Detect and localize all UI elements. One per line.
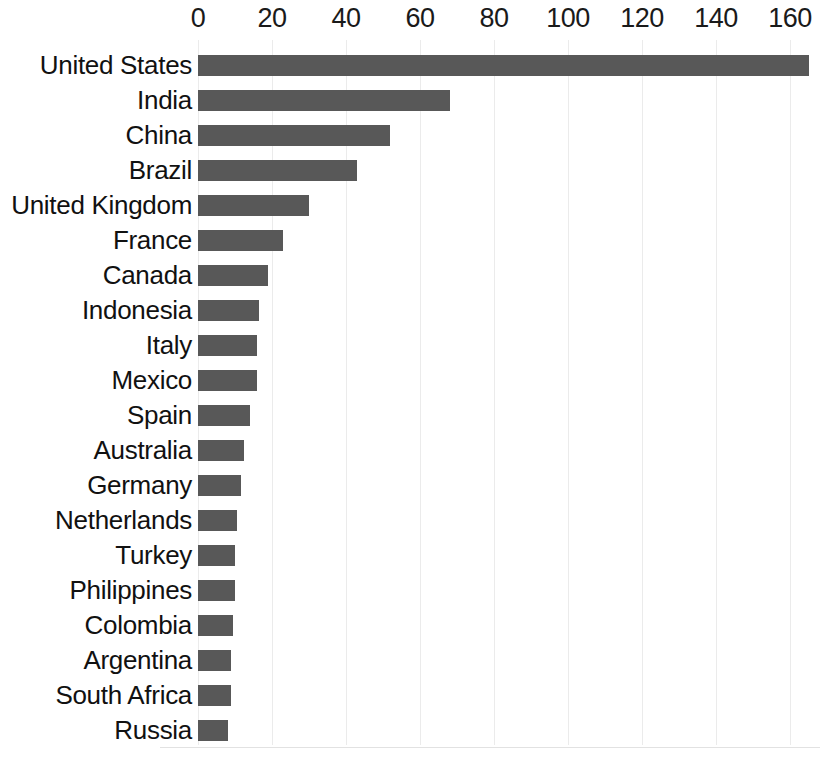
bar <box>198 545 235 566</box>
bar-row: Philippines <box>0 573 830 608</box>
bar <box>198 55 809 76</box>
bar-category-label: France <box>113 223 192 258</box>
bar-chart: 020406080100120140160 United StatesIndia… <box>0 0 830 759</box>
bar-category-label: Australia <box>94 433 192 468</box>
bar-category-label: United States <box>40 48 192 83</box>
bar-row: South Africa <box>0 678 830 713</box>
bar-category-label: Brazil <box>129 153 192 188</box>
bar-category-label: Spain <box>127 398 192 433</box>
bar <box>198 440 244 461</box>
bar-category-label: Italy <box>146 328 192 363</box>
bar <box>198 160 357 181</box>
bar-row: Indonesia <box>0 293 830 328</box>
x-tick-label: 80 <box>479 2 508 34</box>
bar-category-label: South Africa <box>55 678 192 713</box>
bar-row: Australia <box>0 433 830 468</box>
bar-row: Italy <box>0 328 830 363</box>
bar <box>198 300 259 321</box>
x-tick-label: 0 <box>191 2 206 34</box>
bar-category-label: Russia <box>114 713 192 748</box>
bar-row: Colombia <box>0 608 830 643</box>
bar-row: Argentina <box>0 643 830 678</box>
bar <box>198 230 283 251</box>
bar-category-label: Indonesia <box>82 293 192 328</box>
bar-row: France <box>0 223 830 258</box>
x-tick-label: 140 <box>694 2 738 34</box>
bar-row: Germany <box>0 468 830 503</box>
x-tick-label: 20 <box>257 2 286 34</box>
bar-row: Netherlands <box>0 503 830 538</box>
bar <box>198 685 231 706</box>
bar <box>198 195 309 216</box>
x-tick-label: 60 <box>405 2 434 34</box>
x-tick-label: 120 <box>620 2 664 34</box>
bar-category-label: Mexico <box>111 363 192 398</box>
bar-row: Russia <box>0 713 830 748</box>
bar-category-label: Germany <box>87 468 192 503</box>
bar <box>198 265 268 286</box>
bar-category-label: Canada <box>103 258 192 293</box>
bar-category-label: Philippines <box>70 573 192 608</box>
bar-row: Brazil <box>0 153 830 188</box>
bar <box>198 720 228 741</box>
bar-row: Spain <box>0 398 830 433</box>
bar <box>198 405 250 426</box>
bar <box>198 475 241 496</box>
bar-row: United States <box>0 48 830 83</box>
x-tick-label: 40 <box>331 2 360 34</box>
bar <box>198 580 235 601</box>
bar-row: Canada <box>0 258 830 293</box>
bar-category-label: India <box>137 83 192 118</box>
bar-row: Turkey <box>0 538 830 573</box>
x-axis: 020406080100120140160 <box>0 0 830 40</box>
x-tick-label: 160 <box>768 2 812 34</box>
bar-category-label: China <box>126 118 192 153</box>
bar-category-label: Turkey <box>115 538 192 573</box>
x-tick-label: 100 <box>546 2 590 34</box>
bar-row: China <box>0 118 830 153</box>
bar-category-label: Netherlands <box>55 503 192 538</box>
bar <box>198 125 390 146</box>
bar <box>198 370 257 391</box>
bar-row: Mexico <box>0 363 830 398</box>
bar-category-label: United Kingdom <box>11 188 192 223</box>
bar <box>198 335 257 356</box>
bar-category-label: Colombia <box>85 608 192 643</box>
bar-row: India <box>0 83 830 118</box>
bar <box>198 615 233 636</box>
bar <box>198 90 450 111</box>
bar <box>198 650 231 671</box>
bar-category-label: Argentina <box>83 643 192 678</box>
bar <box>198 510 237 531</box>
bar-row: United Kingdom <box>0 188 830 223</box>
plot-area: United StatesIndiaChinaBrazilUnited King… <box>0 40 830 750</box>
